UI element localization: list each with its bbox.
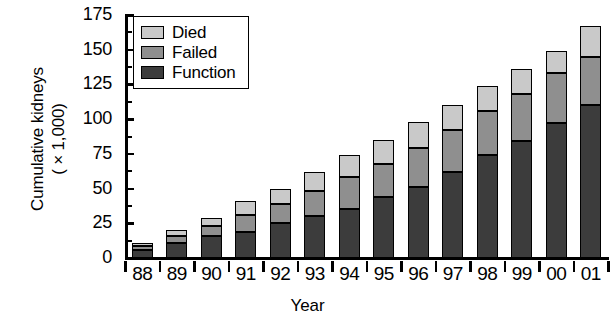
y-axis-tick-label: 75 bbox=[93, 143, 112, 163]
bar-98[interactable] bbox=[477, 86, 498, 258]
bar-00[interactable] bbox=[546, 51, 567, 258]
bar-91[interactable] bbox=[235, 201, 256, 258]
bar-segment-failed[interactable] bbox=[511, 94, 532, 141]
bar-89[interactable] bbox=[166, 230, 187, 258]
legend-item-failed[interactable]: Failed bbox=[141, 42, 236, 62]
bar-segment-died[interactable] bbox=[477, 86, 498, 111]
y-axis-title-line2: ( × 1,000) bbox=[48, 29, 69, 249]
y-axis-tick-label: 0 bbox=[102, 247, 112, 267]
bar-segment-died[interactable] bbox=[373, 140, 394, 164]
bar-segment-function[interactable] bbox=[511, 141, 532, 258]
bar-segment-failed[interactable] bbox=[304, 191, 325, 216]
bar-segment-died[interactable] bbox=[166, 230, 187, 236]
bar-segment-died[interactable] bbox=[132, 243, 153, 246]
y-axis-tick-label: 125 bbox=[83, 73, 112, 93]
bar-01[interactable] bbox=[580, 26, 601, 258]
bar-segment-died[interactable] bbox=[580, 26, 601, 57]
y-axis-minor-tick-mark bbox=[125, 240, 132, 242]
bar-segment-function[interactable] bbox=[132, 250, 153, 258]
bar-segment-died[interactable] bbox=[235, 201, 256, 215]
bar-96[interactable] bbox=[408, 122, 429, 258]
legend-swatch-icon bbox=[141, 46, 164, 59]
bar-segment-failed[interactable] bbox=[132, 246, 153, 250]
bar-segment-function[interactable] bbox=[477, 155, 498, 258]
x-axis-title: Year bbox=[0, 296, 615, 316]
bar-88[interactable] bbox=[132, 243, 153, 258]
bar-segment-died[interactable] bbox=[270, 189, 291, 204]
x-axis-tick-label-93: 93 bbox=[298, 262, 333, 286]
bar-92[interactable] bbox=[270, 189, 291, 258]
bar-segment-function[interactable] bbox=[546, 123, 567, 258]
x-axis-tick-label-98: 98 bbox=[470, 262, 505, 286]
y-axis-tick-mark bbox=[125, 222, 134, 225]
bar-segment-failed[interactable] bbox=[339, 177, 360, 209]
bar-segment-function[interactable] bbox=[201, 236, 222, 258]
bar-segment-function[interactable] bbox=[339, 209, 360, 258]
y-axis-title-line1: Cumulative kidneys bbox=[28, 67, 47, 211]
bar-segment-function[interactable] bbox=[304, 216, 325, 258]
bar-segment-function[interactable] bbox=[270, 223, 291, 258]
bar-segment-failed[interactable] bbox=[408, 148, 429, 187]
bar-segment-failed[interactable] bbox=[235, 215, 256, 232]
bar-segment-failed[interactable] bbox=[442, 130, 463, 172]
bar-segment-function[interactable] bbox=[166, 243, 187, 258]
y-axis-tick-mark bbox=[125, 188, 134, 191]
bar-segment-died[interactable] bbox=[201, 218, 222, 226]
y-axis-minor-tick-mark bbox=[125, 205, 132, 207]
bar-segment-failed[interactable] bbox=[201, 226, 222, 236]
bar-segment-function[interactable] bbox=[235, 232, 256, 258]
legend-swatch-icon bbox=[141, 66, 164, 79]
bar-segment-died[interactable] bbox=[408, 122, 429, 148]
bar-segment-died[interactable] bbox=[511, 69, 532, 94]
legend-item-label: Failed bbox=[172, 43, 217, 62]
x-axis-tick-label-00: 00 bbox=[539, 262, 574, 286]
legend-item-label: Function bbox=[172, 63, 236, 82]
legend-swatch-icon bbox=[141, 26, 164, 39]
legend-item-label: Died bbox=[172, 23, 206, 42]
x-axis-tick-label-94: 94 bbox=[332, 262, 367, 286]
bar-segment-function[interactable] bbox=[442, 172, 463, 258]
bar-segment-failed[interactable] bbox=[546, 73, 567, 123]
x-axis-tick-label-92: 92 bbox=[263, 262, 298, 286]
legend-item-function[interactable]: Function bbox=[141, 62, 236, 82]
bar-segment-failed[interactable] bbox=[580, 57, 601, 106]
y-axis-minor-tick-mark bbox=[125, 66, 132, 68]
x-axis-tick-label-01: 01 bbox=[574, 262, 609, 286]
bar-segment-died[interactable] bbox=[304, 172, 325, 191]
x-axis-tick-label-97: 97 bbox=[436, 262, 471, 286]
bar-segment-function[interactable] bbox=[373, 197, 394, 258]
x-axis-tick-label-95: 95 bbox=[367, 262, 402, 286]
bar-segment-failed[interactable] bbox=[477, 111, 498, 155]
bar-segment-failed[interactable] bbox=[373, 164, 394, 197]
bar-93[interactable] bbox=[304, 172, 325, 258]
bar-segment-died[interactable] bbox=[546, 51, 567, 73]
x-axis-tick-label-89: 89 bbox=[160, 262, 195, 286]
bar-95[interactable] bbox=[373, 140, 394, 258]
x-axis-tick-label-90: 90 bbox=[194, 262, 229, 286]
bar-97[interactable] bbox=[442, 105, 463, 258]
x-axis-tick-label-96: 96 bbox=[401, 262, 436, 286]
x-axis-tick-label-99: 99 bbox=[505, 262, 540, 286]
bar-segment-failed[interactable] bbox=[166, 236, 187, 243]
bar-segment-function[interactable] bbox=[580, 105, 601, 258]
stacked-bar-chart: Cumulative kidneys ( × 1,000) 0255075100… bbox=[0, 0, 615, 329]
x-axis-tick-label-91: 91 bbox=[229, 262, 264, 286]
bar-99[interactable] bbox=[511, 69, 532, 258]
bar-segment-function[interactable] bbox=[408, 187, 429, 258]
bar-segment-died[interactable] bbox=[339, 155, 360, 177]
bar-90[interactable] bbox=[201, 218, 222, 258]
y-axis-minor-tick-mark bbox=[125, 170, 132, 172]
legend-item-died[interactable]: Died bbox=[141, 22, 236, 42]
y-axis-tick-label: 25 bbox=[93, 212, 112, 232]
y-axis-tick-label: 175 bbox=[83, 4, 112, 24]
y-axis-minor-tick-mark bbox=[125, 31, 132, 33]
y-axis-tick-label: 100 bbox=[83, 108, 112, 128]
bar-segment-failed[interactable] bbox=[270, 204, 291, 223]
y-axis-tick-mark bbox=[125, 118, 134, 121]
chart-legend: DiedFailedFunction bbox=[133, 16, 249, 89]
x-axis-tick-label-88: 88 bbox=[125, 262, 160, 286]
bar-segment-died[interactable] bbox=[442, 105, 463, 130]
bar-94[interactable] bbox=[339, 155, 360, 258]
y-axis-minor-tick-mark bbox=[125, 101, 132, 103]
y-axis-tick-mark bbox=[125, 153, 134, 156]
